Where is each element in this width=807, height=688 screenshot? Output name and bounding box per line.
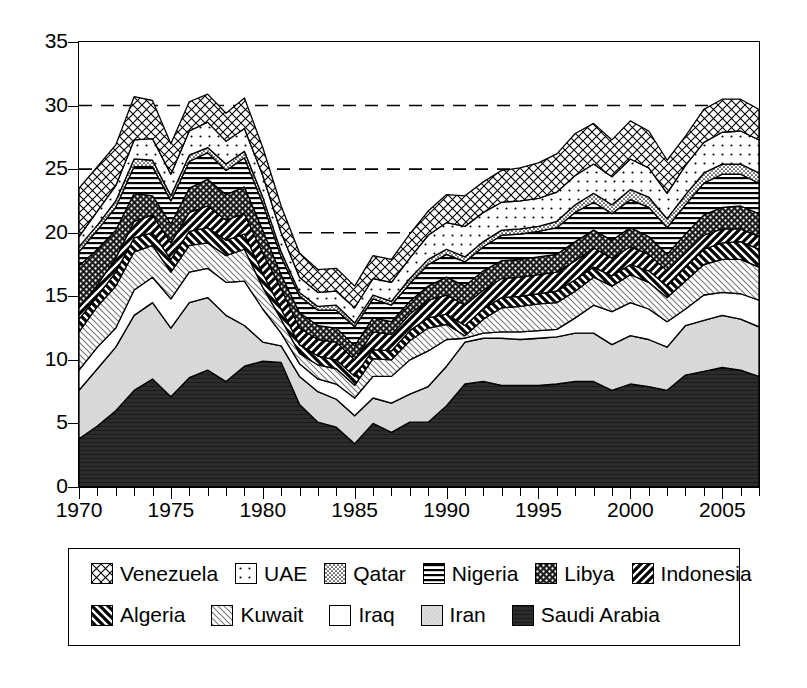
y-tick-label: 15 [22,283,68,307]
legend-swatch-dark-with-dots-icon [535,563,557,584]
legend-label: Kuwait [240,603,303,627]
legend-swatch-light-thin-diagonal-icon [211,605,233,626]
legend-swatch-thick-back-diagonal-icon [632,563,654,584]
x-tick-mark-minor [373,488,374,496]
x-tick-mark-minor [208,488,209,496]
legend-item-uae[interactable]: UAE [235,562,307,586]
y-tick-label: 20 [22,220,68,244]
x-tick-mark-minor [226,488,227,496]
legend-label: Iran [450,603,486,627]
x-tick-mark-major [630,488,631,499]
legend-item-kuwait[interactable]: Kuwait [211,603,303,627]
x-tick-mark-minor [520,488,521,496]
legend-swatch-cross-hatch-icon [91,563,113,584]
y-tick-label: 0 [22,474,68,498]
x-tick-label: 2000 [595,498,665,522]
stacked-area-series [79,42,759,487]
y-tick-label: 35 [22,29,68,53]
x-tick-label: 1985 [320,498,390,522]
legend-swatch-sparse-dots-icon [235,563,257,584]
x-tick-label: 2005 [687,498,757,522]
x-tick-label: 1970 [44,498,114,522]
legend-label: Libya [564,562,614,586]
legend-label: UAE [264,562,307,586]
x-tick-mark-minor [410,488,411,496]
x-tick-mark-minor [318,488,319,496]
y-tick-label: 25 [22,156,68,180]
legend-swatch-horizontal-lines-icon [423,563,445,584]
y-tick-label: 10 [22,347,68,371]
legend-item-algeria[interactable]: Algeria [91,603,185,627]
legend-item-iraq[interactable]: Iraq [329,603,394,627]
x-tick-mark-minor [667,488,668,496]
x-tick-mark-minor [575,488,576,496]
legend-item-iran[interactable]: Iran [421,603,486,627]
x-tick-mark-minor [704,488,705,496]
x-tick-mark-major [538,488,539,499]
plot-area [78,41,760,488]
legend: VenezuelaUAEQatarNigeriaLibyaIndonesia A… [68,548,740,646]
x-tick-mark-major [79,488,80,499]
legend-item-venezuela[interactable]: Venezuela [91,562,218,586]
x-tick-mark-minor [612,488,613,496]
chart-root: 05101520253035 1970197519801985199019952… [0,0,807,688]
legend-row-secondary: AlgeriaKuwaitIraqIranSaudi Arabia [69,593,739,637]
y-tick-label: 30 [22,93,68,117]
x-tick-mark-minor [116,488,117,496]
x-tick-mark-minor [557,488,558,496]
x-tick-mark-minor [336,488,337,496]
x-tick-mark-minor [391,488,392,496]
legend-swatch-solid-dark-icon [512,605,534,626]
x-tick-mark-minor [483,488,484,496]
legend-swatch-fine-stipple-icon [324,563,346,584]
x-tick-mark-minor [428,488,429,496]
x-tick-mark-minor [189,488,190,496]
area-bands [79,94,759,487]
x-tick-mark-minor [502,488,503,496]
x-tick-label: 1990 [412,498,482,522]
x-tick-mark-minor [685,488,686,496]
legend-swatch-bold-forward-diagonal-icon [91,605,113,626]
x-tick-mark-major [263,488,264,499]
x-tick-mark-minor [281,488,282,496]
legend-label: Algeria [120,603,185,627]
legend-item-saudi-arabia[interactable]: Saudi Arabia [512,603,660,627]
legend-label: Saudi Arabia [541,603,660,627]
x-tick-mark-minor [741,488,742,496]
legend-item-indonesia[interactable]: Indonesia [632,562,752,586]
x-tick-mark-major [171,488,172,499]
x-tick-label: 1975 [136,498,206,522]
y-tick-label: 5 [22,410,68,434]
x-tick-mark-minor [649,488,650,496]
legend-label: Nigeria [452,562,519,586]
x-tick-mark-minor [244,488,245,496]
legend-swatch-light-gray-solid-icon [421,605,443,626]
x-tick-mark-major [722,488,723,499]
x-tick-mark-minor [759,488,760,496]
legend-row-primary: VenezuelaUAEQatarNigeriaLibyaIndonesia [69,549,739,593]
x-tick-label: 1980 [228,498,298,522]
x-tick-label: 1995 [503,498,573,522]
x-tick-mark-minor [97,488,98,496]
legend-item-nigeria[interactable]: Nigeria [423,562,519,586]
legend-label: Qatar [353,562,406,586]
legend-label: Indonesia [661,562,752,586]
x-tick-mark-major [447,488,448,499]
x-tick-mark-minor [594,488,595,496]
x-tick-mark-major [355,488,356,499]
legend-swatch-empty-white-icon [329,605,351,626]
x-tick-mark-minor [300,488,301,496]
x-tick-mark-minor [134,488,135,496]
legend-item-qatar[interactable]: Qatar [324,562,406,586]
x-tick-mark-minor [153,488,154,496]
legend-label: Venezuela [120,562,218,586]
legend-label: Iraq [358,603,394,627]
x-tick-mark-minor [465,488,466,496]
legend-item-libya[interactable]: Libya [535,562,614,586]
